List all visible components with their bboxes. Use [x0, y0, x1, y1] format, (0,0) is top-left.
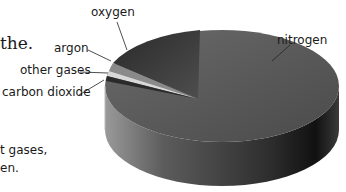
label-carbon-dioxide: carbon dioxide	[2, 85, 91, 99]
label-nitrogen: nitrogen	[277, 33, 327, 47]
label-oxygen: oxygen	[91, 5, 135, 19]
label-argon: argon	[54, 41, 89, 55]
label-other-gases: other gases	[20, 63, 91, 77]
leader-argon	[88, 50, 111, 61]
leader-oxygen	[117, 22, 127, 50]
